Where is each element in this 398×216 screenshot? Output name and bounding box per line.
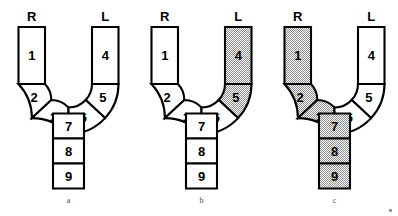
cell-8[interactable] [319,139,350,164]
cell-9[interactable] [319,164,350,189]
label-right-side: R [160,9,170,24]
cell-8[interactable] [53,139,84,164]
label-right-side: R [27,9,37,24]
cell-9[interactable] [186,164,217,189]
cell-4[interactable] [358,27,385,84]
cell-4[interactable] [225,27,252,84]
label-left-side: L [234,9,242,24]
scan-artifact-speck [389,209,392,212]
cell-7[interactable] [319,114,350,139]
label-right-side: R [293,9,303,24]
diagram-figure-b: RL123456789b [133,0,266,216]
diagram-figure-c: RL123456789c [266,0,398,216]
label-left-side: L [367,9,375,24]
label-left-side: L [101,9,109,24]
figure-caption: a [67,196,71,205]
figure-panel-row: RL123456789aRL123456789bRL123456789c [0,0,398,216]
figure-caption: c [333,196,337,205]
figure-caption: b [200,196,204,205]
cell-1[interactable] [152,27,179,84]
cell-7[interactable] [186,114,217,139]
cell-4[interactable] [92,27,119,84]
cell-1[interactable] [285,27,312,84]
diagram-figure-a: RL123456789a [0,0,133,216]
cell-7[interactable] [53,114,84,139]
cell-1[interactable] [19,27,46,84]
cell-9[interactable] [53,164,84,189]
cell-8[interactable] [186,139,217,164]
